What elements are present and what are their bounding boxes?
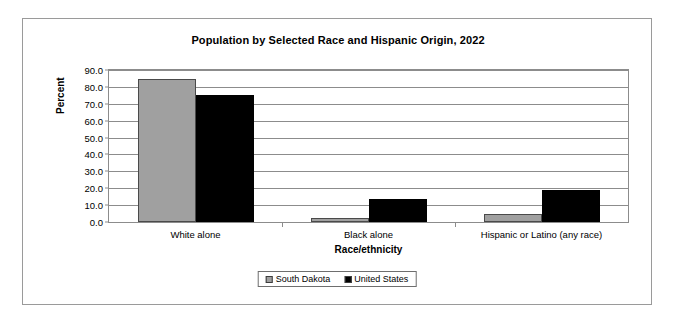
y-axis-tick-mark bbox=[105, 86, 109, 87]
y-axis-tick-label: 50.0 bbox=[85, 132, 104, 143]
y-axis-tick-mark bbox=[105, 154, 109, 155]
y-axis-tick-label: 40.0 bbox=[85, 149, 104, 160]
legend-swatch-icon bbox=[344, 276, 351, 283]
plot-area: 0.010.020.030.040.050.060.070.080.090.0W… bbox=[108, 69, 629, 223]
y-axis-tick-mark bbox=[105, 171, 109, 172]
y-axis-tick-mark bbox=[105, 205, 109, 206]
x-axis-tick-mark bbox=[282, 222, 283, 227]
x-axis-tick-mark bbox=[455, 222, 456, 227]
y-axis-tick-mark bbox=[105, 222, 109, 223]
gridline bbox=[109, 70, 628, 71]
y-axis-tick-label: 60.0 bbox=[85, 115, 104, 126]
x-axis-category-label: White alone bbox=[170, 229, 220, 240]
y-axis-tick-label: 90.0 bbox=[85, 65, 104, 76]
y-axis-tick-label: 70.0 bbox=[85, 98, 104, 109]
y-axis-tick-label: 20.0 bbox=[85, 183, 104, 194]
y-axis-tick-label: 10.0 bbox=[85, 200, 104, 211]
y-axis-tick-label: 0.0 bbox=[90, 217, 103, 228]
legend-item-south-dakota[interactable]: South Dakota bbox=[266, 274, 331, 284]
y-axis-tick-mark bbox=[105, 103, 109, 104]
chart-legend: South DakotaUnited States bbox=[258, 271, 417, 287]
gridline bbox=[109, 222, 628, 223]
y-axis-tick-label: 30.0 bbox=[85, 166, 104, 177]
chart-title: Population by Selected Race and Hispanic… bbox=[23, 34, 653, 46]
chart-frame: Population by Selected Race and Hispanic… bbox=[22, 18, 652, 305]
y-axis-tick-mark bbox=[105, 70, 109, 71]
y-axis-tick-mark bbox=[105, 188, 109, 189]
legend-label: United States bbox=[354, 274, 408, 284]
bar-united-states-hispanic-or-latino-any-race-[interactable] bbox=[542, 190, 600, 222]
x-axis-category-label: Black alone bbox=[344, 229, 393, 240]
legend-swatch-icon bbox=[266, 276, 273, 283]
bar-south-dakota-white-alone[interactable] bbox=[138, 79, 196, 222]
x-axis-category-label: Hispanic or Latino (any race) bbox=[481, 229, 602, 240]
y-axis-tick-label: 80.0 bbox=[85, 81, 104, 92]
x-axis-title: Race/ethnicity bbox=[108, 244, 629, 255]
bar-united-states-white-alone[interactable] bbox=[196, 95, 254, 223]
bar-united-states-black-alone[interactable] bbox=[369, 199, 427, 222]
y-axis-title: Percent bbox=[55, 77, 66, 114]
bar-south-dakota-hispanic-or-latino-any-race-[interactable] bbox=[484, 214, 542, 222]
bar-south-dakota-black-alone[interactable] bbox=[311, 218, 369, 222]
legend-item-united-states[interactable]: United States bbox=[344, 274, 408, 284]
y-axis-tick-mark bbox=[105, 137, 109, 138]
legend-label: South Dakota bbox=[276, 274, 331, 284]
y-axis-tick-mark bbox=[105, 120, 109, 121]
